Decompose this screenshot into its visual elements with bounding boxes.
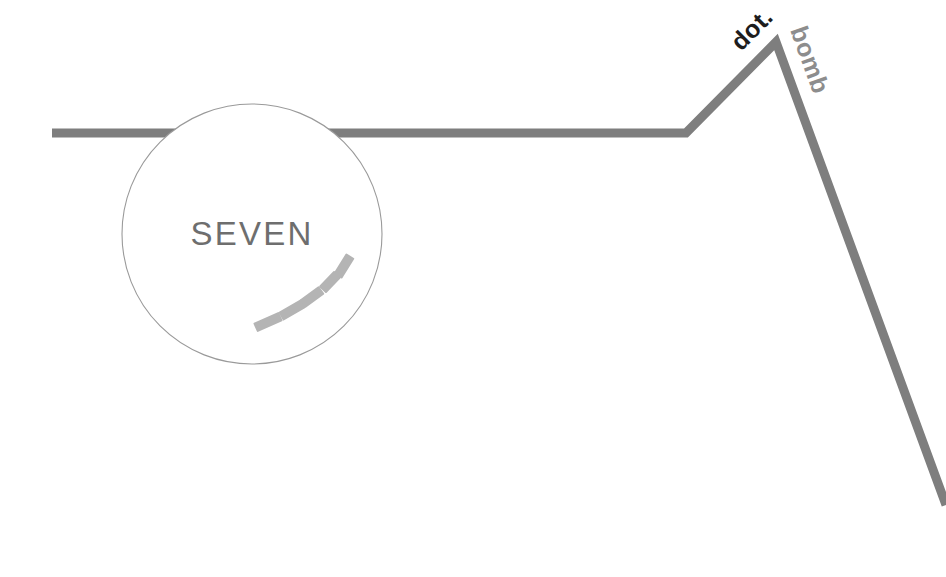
infographic-canvas: SEVEN dot. bomb: [0, 0, 946, 577]
node-label-seven: SEVEN: [191, 215, 314, 252]
timeline-chart: SEVEN dot. bomb: [0, 0, 946, 577]
